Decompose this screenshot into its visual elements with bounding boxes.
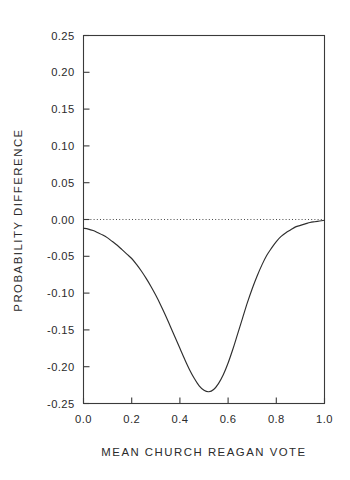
x-tick-label: 1.0 [316,413,333,425]
y-tick-label: 0.10 [51,140,74,152]
y-tick-label: -0.25 [47,398,75,410]
x-tick-label: 0.4 [172,413,189,425]
y-tick-label: -0.20 [47,361,75,373]
x-axis-title: MEAN CHURCH REAGAN VOTE [101,446,306,458]
y-tick-label: -0.05 [47,250,75,262]
x-tick-label: 0.6 [220,413,237,425]
probability-difference-line-chart: -0.25-0.20-0.15-0.10-0.050.000.050.100.1… [0,0,350,480]
x-tick-label: 0.2 [123,413,140,425]
y-tick-label: 0.15 [51,103,74,115]
y-tick-label: -0.15 [47,324,75,336]
y-axis-title: PROBABILITY DIFFERENCE [12,128,24,311]
y-tick-label: 0.05 [51,177,74,189]
chart-figure: -0.25-0.20-0.15-0.10-0.050.000.050.100.1… [0,0,350,480]
y-tick-label: 0.00 [51,214,74,226]
y-tick-label: 0.25 [51,30,74,42]
y-tick-label: -0.10 [47,287,75,299]
x-tick-label: 0.8 [268,413,285,425]
x-tick-label: 0.0 [75,413,92,425]
y-tick-label: 0.20 [51,66,74,78]
